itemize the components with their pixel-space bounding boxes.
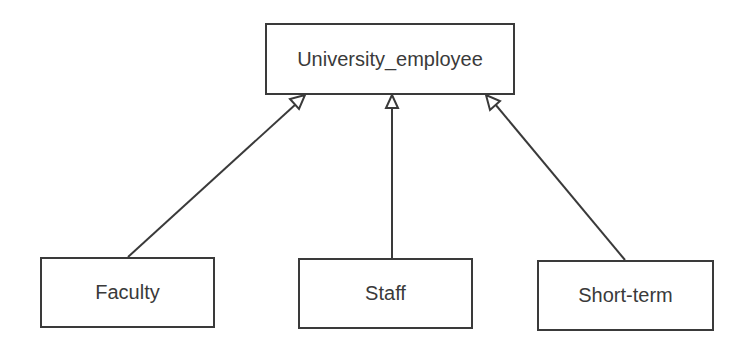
staff-class: Staff: [298, 258, 473, 329]
faculty-label: Faculty: [95, 281, 159, 304]
faculty-class: Faculty: [40, 257, 215, 328]
staff-arrowhead-icon: [386, 95, 398, 108]
shortterm-generalization-line: [495, 104, 625, 260]
faculty-generalization-line: [128, 104, 296, 257]
short-term-class: Short-term: [537, 260, 714, 331]
university-employee-class: University_employee: [265, 23, 515, 95]
short-term-label: Short-term: [578, 284, 672, 307]
staff-label: Staff: [365, 282, 406, 305]
university-employee-label: University_employee: [297, 48, 483, 71]
